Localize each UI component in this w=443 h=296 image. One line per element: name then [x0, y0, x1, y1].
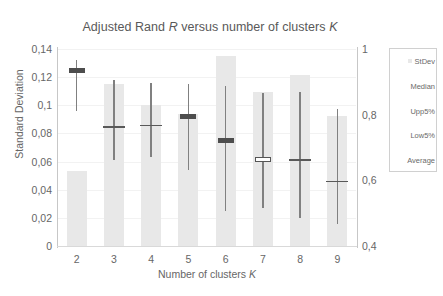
x-axis-tick-label: 2 [62, 253, 92, 265]
chart-title-italic-k: K [329, 20, 337, 34]
stdev-bar [67, 171, 87, 246]
x-axis-line [57, 246, 357, 247]
average-marker [326, 181, 348, 183]
y-axis-secondary-tick-label: 1 [362, 43, 368, 55]
x-axis-tick-label: 7 [248, 253, 278, 265]
x-axis-tick-label: 8 [285, 253, 315, 265]
gridline [58, 77, 356, 78]
x-axis-title: Number of clusters K [58, 268, 356, 280]
x-axis-tick-label: 6 [211, 253, 241, 265]
y-axis-secondary-tick-label: 0,6 [362, 174, 377, 186]
legend-swatch-icon [403, 109, 407, 113]
x-axis-tick-label: 4 [136, 253, 166, 265]
legend-swatch-icon [403, 84, 407, 88]
legend-item[interactable]: Upp5% [390, 104, 438, 118]
y-axis-tick-label: 0,04 [6, 184, 52, 196]
whisker-range [150, 83, 152, 156]
y-axis-tick-label: 0,1 [6, 99, 52, 111]
gridline [58, 49, 356, 50]
whisker-range [337, 109, 339, 224]
legend-item[interactable]: Average [390, 154, 438, 168]
y-axis-tick-label: 0,12 [6, 71, 52, 83]
chart-title-part-b: versus number of clusters [178, 20, 329, 34]
gridline [58, 133, 356, 134]
legend-swatch-icon [408, 59, 412, 63]
plot-area [58, 49, 356, 246]
chart-container: Adjusted Rand R versus number of cluster… [0, 0, 443, 296]
gridline [58, 105, 356, 106]
y-axis-secondary-tick-label: 0,4 [362, 240, 377, 252]
legend-item-label: Average [407, 156, 435, 165]
whisker-range [225, 86, 227, 210]
y-axis-right-line [357, 47, 358, 248]
x-axis-title-part-a: Number of clusters [158, 268, 249, 280]
median-marker [180, 114, 196, 119]
whisker-range [299, 92, 301, 218]
gridline [58, 162, 356, 163]
median-marker [255, 157, 271, 162]
whisker-range [188, 84, 190, 169]
x-axis-tick-label: 5 [173, 253, 203, 265]
chart-title-italic-r: R [169, 20, 178, 34]
y-axis-tick-label: 0,06 [6, 156, 52, 168]
legend-item-label: Median [410, 82, 435, 91]
y-axis-tick-label: 0,14 [6, 43, 52, 55]
legend-item-label: Low5% [410, 131, 435, 140]
y-axis-tick-label: 0,08 [6, 127, 52, 139]
y-axis-secondary-tick-label: 0,8 [362, 109, 377, 121]
median-marker [218, 138, 234, 143]
chart-legend: StDevMedianUpp5%Low5%Average [389, 48, 437, 172]
gridline [58, 218, 356, 219]
chart-title: Adjusted Rand R versus number of cluster… [0, 20, 420, 34]
average-marker [140, 125, 162, 127]
average-marker [289, 159, 311, 161]
x-axis-title-italic-k: K [249, 268, 256, 280]
legend-item-label: StDev [415, 57, 435, 66]
x-axis-tick-label: 3 [99, 253, 129, 265]
legend-swatch-icon [400, 159, 404, 163]
chart-title-part-a: Adjusted Rand [82, 20, 168, 34]
average-marker [103, 126, 125, 128]
legend-item[interactable]: StDev [390, 54, 438, 68]
legend-item[interactable]: Median [390, 79, 438, 93]
y-axis-left-ticks: 00,020,040,060,080,10,120,14 [0, 0, 52, 296]
gridline [58, 190, 356, 191]
y-axis-tick-label: 0,02 [6, 212, 52, 224]
legend-swatch-icon [403, 134, 407, 138]
whisker-range [113, 80, 115, 160]
legend-item[interactable]: Low5% [390, 129, 438, 143]
y-axis-tick-label: 0 [6, 240, 52, 252]
x-axis-tick-label: 9 [322, 253, 352, 265]
legend-item-label: Upp5% [410, 107, 435, 116]
median-marker [69, 68, 85, 73]
whisker-range [262, 93, 264, 208]
